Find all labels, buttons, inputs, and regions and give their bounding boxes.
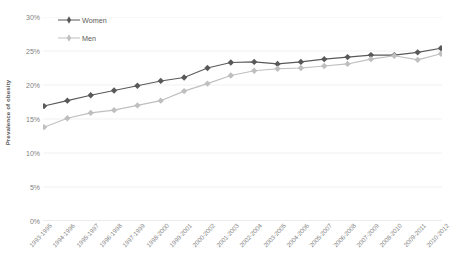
data-point-marker	[88, 110, 94, 116]
plot-svg	[43, 17, 442, 221]
x-tick-label: 1998-2000	[145, 222, 170, 248]
data-point-marker	[321, 56, 327, 62]
x-tick-label: 2006-2008	[331, 222, 356, 248]
x-tick-label: 1997-1999	[121, 222, 146, 248]
data-point-marker	[321, 63, 327, 69]
x-tick-label: 2007-2009	[355, 222, 380, 248]
x-axis-ticks: 1993-19951994-19961995-19971996-19981997…	[43, 222, 442, 279]
x-tick-label: 2010-2012	[425, 222, 450, 248]
data-point-marker	[158, 78, 164, 84]
data-point-marker	[298, 59, 304, 65]
x-tick-label: 2004-2006	[285, 222, 310, 248]
legend-label-men: Men	[82, 34, 96, 43]
data-point-marker	[391, 53, 397, 59]
y-tick-label: 25%	[14, 48, 40, 55]
data-point-marker	[228, 72, 234, 78]
y-tick-label: 10%	[14, 150, 40, 157]
data-point-marker	[64, 115, 70, 121]
legend-label-women: Women	[82, 16, 107, 25]
y-tick-label: 30%	[14, 14, 40, 21]
data-point-marker	[228, 59, 234, 65]
x-tick-label: 1996-1998	[98, 222, 123, 248]
data-point-marker	[134, 82, 140, 88]
data-point-marker	[43, 103, 47, 109]
x-tick-label: 2002-2004	[238, 222, 263, 248]
y-tick-label: 0%	[14, 218, 40, 225]
data-point-marker	[414, 57, 420, 63]
data-point-marker	[274, 65, 280, 71]
legend-item-women: Women	[58, 11, 168, 29]
x-tick-label: 2001-2003	[215, 222, 240, 248]
data-point-marker	[88, 92, 94, 98]
legend-marker-women-icon	[58, 15, 80, 25]
data-point-marker	[368, 56, 374, 62]
x-tick-label: 2003-2005	[261, 222, 286, 248]
data-point-marker	[134, 102, 140, 108]
data-point-marker	[204, 80, 210, 86]
x-tick-label: 2009-2011	[402, 222, 427, 248]
x-tick-label: 2008-2010	[378, 222, 403, 248]
data-point-marker	[251, 59, 257, 65]
data-point-marker	[64, 97, 70, 103]
data-point-marker	[111, 87, 117, 93]
legend-marker-men-icon	[58, 33, 80, 43]
x-tick-label: 2000-2002	[191, 222, 216, 248]
data-point-marker	[438, 51, 442, 57]
x-tick-label: 1999-2001	[168, 222, 193, 248]
x-tick-label: 1995-1997	[75, 222, 100, 248]
data-point-marker	[111, 107, 117, 113]
y-tick-label: 15%	[14, 116, 40, 123]
x-tick-label: 2005-2007	[308, 222, 333, 248]
series-women	[43, 45, 442, 109]
series-line	[44, 48, 441, 106]
chart-legend: Women Men	[58, 11, 168, 47]
data-point-marker	[43, 124, 47, 130]
data-point-marker	[298, 65, 304, 71]
obesity-prevalence-line-chart: Prevalence of obesity 30%25%20%15%10%5%0…	[0, 0, 450, 279]
data-point-marker	[181, 88, 187, 94]
y-tick-label: 20%	[14, 82, 40, 89]
data-point-marker	[344, 61, 350, 67]
plot-area	[43, 17, 442, 221]
data-point-marker	[181, 74, 187, 80]
data-point-marker	[344, 54, 350, 60]
data-point-marker	[251, 68, 257, 74]
data-point-marker	[438, 45, 442, 51]
data-point-marker	[158, 97, 164, 103]
series-line	[44, 54, 441, 127]
data-point-marker	[414, 49, 420, 55]
x-tick-label: 1994-1996	[51, 222, 76, 248]
data-point-marker	[204, 65, 210, 71]
y-tick-label: 5%	[14, 184, 40, 191]
legend-item-men: Men	[58, 29, 168, 47]
